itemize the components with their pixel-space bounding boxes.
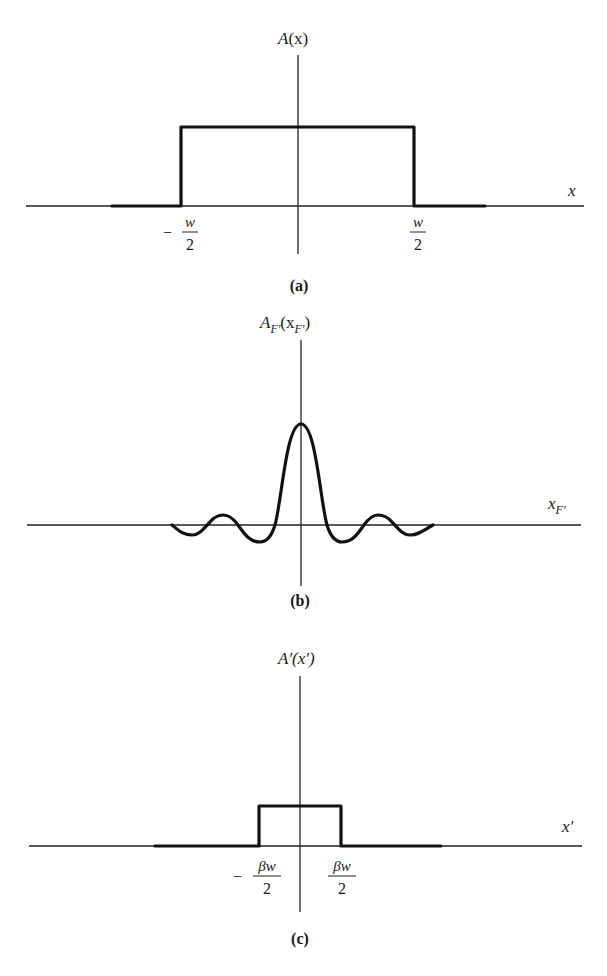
rect-function-c [155, 806, 441, 846]
y-axis-label-a: A(x) [277, 29, 308, 48]
x-axis-label-c: x′ [561, 817, 574, 836]
caption-b: (b) [290, 592, 310, 610]
tick-left-num-c: βw [257, 858, 275, 874]
panel-a: A(x) x − w 2 w 2 (a) [26, 29, 584, 295]
tick-left-den-a: 2 [186, 236, 194, 253]
tick-right-den-c: 2 [338, 880, 346, 897]
x-axis-label-b: xF′ [547, 494, 566, 517]
y-axis-label-b: AF′(xF′) [259, 313, 310, 336]
tick-left-sign-a: − [163, 224, 172, 241]
panel-b: AF′(xF′) xF′ (b) [27, 313, 581, 610]
y-axis-label-c: A′(x′) [277, 649, 315, 668]
tick-left-den-c: 2 [263, 880, 271, 897]
figure-canvas: A(x) x − w 2 w 2 (a) AF′(xF′) xF′ (b) A′… [0, 0, 607, 976]
caption-a: (a) [290, 277, 309, 295]
x-axis-label-a: x [567, 181, 576, 200]
panel-c: A′(x′) x′ − βw 2 βw 2 (c) [29, 649, 582, 948]
tick-right-num-c: βw [332, 858, 350, 874]
tick-right-den-a: 2 [414, 236, 422, 253]
tick-left-num-a: w [185, 214, 195, 230]
tick-left-sign-c: − [233, 868, 242, 885]
caption-c: (c) [291, 930, 309, 948]
sinc-curve-b [172, 424, 433, 542]
tick-right-num-a: w [413, 214, 423, 230]
